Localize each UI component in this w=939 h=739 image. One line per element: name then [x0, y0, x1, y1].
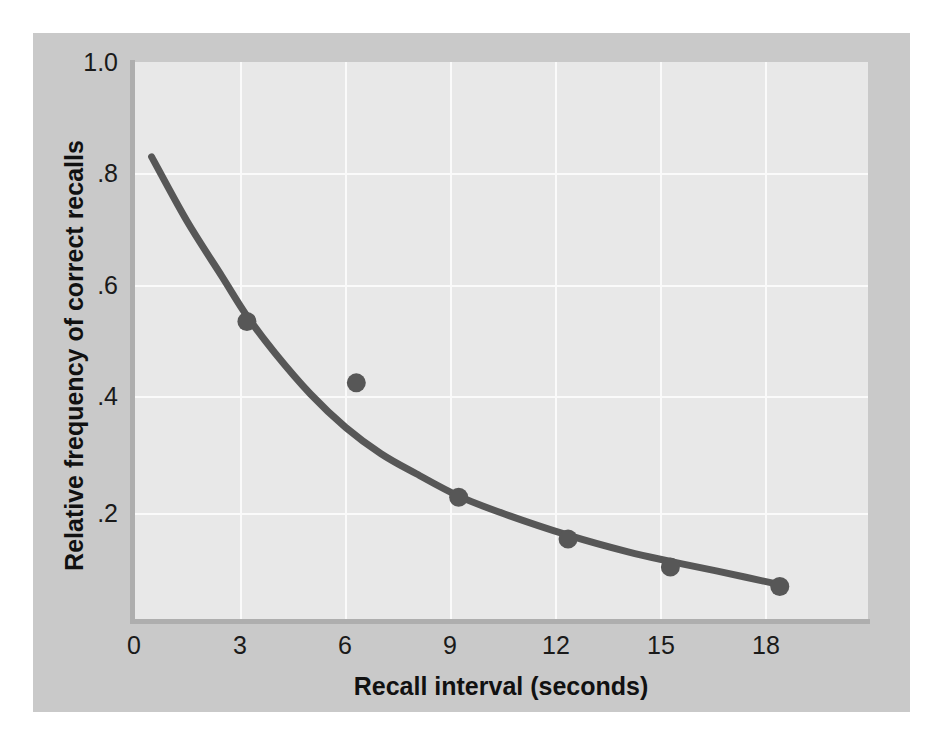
x-axis-line — [130, 619, 870, 624]
figure-canvas: 1.0 .8 .6 .4 .2 0 3 6 9 12 15 18 Recall … — [0, 0, 939, 739]
y-tick-label: 1.0 — [58, 48, 118, 77]
gridline-vertical — [240, 62, 242, 620]
gridline-vertical — [450, 62, 452, 620]
plot-area — [134, 62, 868, 620]
y-axis-title: Relative frequency of correct recalls — [60, 76, 89, 636]
gridline-vertical — [765, 62, 767, 620]
x-tick-label: 18 — [736, 631, 796, 660]
x-axis-tick-labels: 0 3 6 9 12 15 18 — [0, 631, 939, 667]
x-tick-label: 12 — [526, 631, 586, 660]
gridline-vertical — [660, 62, 662, 620]
x-tick-label: 6 — [315, 631, 375, 660]
gridline-horizontal — [134, 285, 868, 287]
gridline-horizontal — [134, 173, 868, 175]
gridline-horizontal — [134, 513, 868, 515]
y-axis-line — [130, 60, 135, 624]
gridline-vertical — [555, 62, 557, 620]
x-axis-title: Recall interval (seconds) — [134, 672, 868, 701]
x-tick-label: 9 — [420, 631, 480, 660]
x-tick-label: 3 — [210, 631, 270, 660]
gridline-horizontal — [134, 396, 868, 398]
x-tick-label: 0 — [104, 631, 164, 660]
x-tick-label: 15 — [631, 631, 691, 660]
gridline-vertical — [345, 62, 347, 620]
